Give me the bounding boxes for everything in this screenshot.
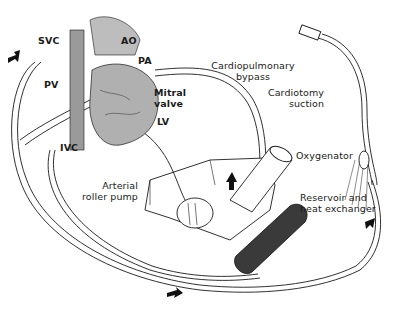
label-pv: PV [44, 79, 59, 90]
label-arterial-roller-pump: Arterial roller pump [72, 180, 138, 202]
flow-arrow-icon [8, 50, 20, 63]
heart-illustration [70, 17, 158, 150]
label-ivc: IVC [60, 142, 78, 153]
flow-arrow-icon [365, 218, 375, 229]
flow-arrow-icon [167, 287, 183, 298]
label-pa: PA [138, 55, 152, 66]
label-mitral-valve: Mitral valve [154, 87, 186, 109]
roller-pump [177, 198, 213, 228]
label-svc: SVC [38, 35, 59, 46]
label-lv: LV [157, 116, 169, 127]
label-oxygenator: Oxygenator [296, 150, 353, 161]
label-cardiopulmonary-bypass: Cardiopulmonary bypass [205, 60, 301, 82]
label-ao: AO [121, 35, 137, 46]
label-cardiotomy-suction: Cardiotomy suction [256, 87, 324, 109]
label-reservoir-heat-exchanger: Reservoir and heat exchanger [300, 192, 376, 214]
